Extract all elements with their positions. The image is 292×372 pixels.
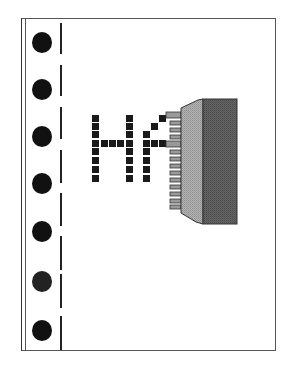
connector-pins <box>166 112 181 209</box>
connector-block-icon <box>0 0 292 372</box>
